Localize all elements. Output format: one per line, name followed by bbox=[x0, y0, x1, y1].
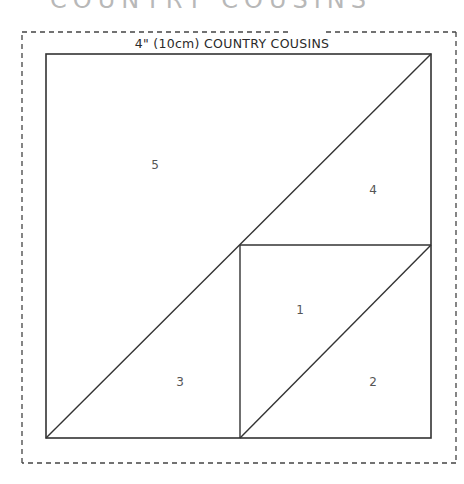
piece-label-5: 5 bbox=[151, 158, 159, 172]
inner-diagonal bbox=[240, 245, 431, 438]
piece-label-2: 2 bbox=[369, 375, 377, 389]
piece-label-1: 1 bbox=[296, 303, 304, 317]
dashed-cut-border bbox=[22, 32, 456, 463]
piece-label-3: 3 bbox=[176, 375, 184, 389]
template-title: 4" (10cm) COUNTRY COUSINS bbox=[0, 36, 464, 51]
quilt-block-diagram bbox=[0, 0, 464, 484]
piece-label-4: 4 bbox=[369, 183, 377, 197]
